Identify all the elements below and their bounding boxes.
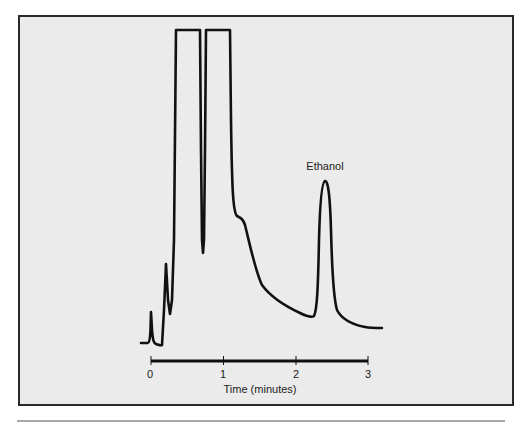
ethanol-peak-label: Ethanol [306,160,343,172]
x-tick-label-1: 1 [220,368,226,380]
x-tick-label-0: 0 [147,368,153,380]
x-axis-title: Time (minutes) [224,383,297,395]
x-tick-label-2: 2 [293,368,299,380]
x-tick-label-3: 3 [365,368,371,380]
chromatogram-plot: 0 1 2 3 Time (minutes) Ethanol [0,0,532,424]
chromatogram-trace [141,30,382,345]
